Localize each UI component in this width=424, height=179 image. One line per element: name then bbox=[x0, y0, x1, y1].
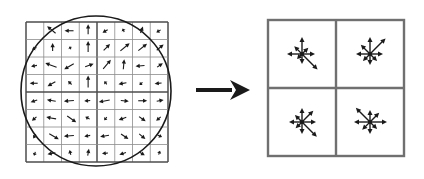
arrow-head bbox=[47, 98, 52, 102]
arrow-head bbox=[99, 99, 104, 103]
sift-descriptor-figure bbox=[0, 0, 424, 179]
gradient-arrow bbox=[86, 149, 90, 156]
arrow-shaft bbox=[103, 62, 109, 69]
arrow-head bbox=[30, 81, 34, 85]
arrow-head bbox=[86, 75, 90, 79]
gradient-arrow bbox=[68, 81, 72, 85]
gradient-arrow bbox=[85, 116, 89, 120]
gradient-arrow bbox=[155, 81, 162, 85]
arrow-head bbox=[158, 63, 163, 67]
gradient-arrow bbox=[156, 117, 161, 121]
transition-arrow-panel bbox=[190, 70, 256, 110]
arrow-head bbox=[86, 41, 90, 45]
arrow-head bbox=[159, 99, 164, 103]
arrow-head bbox=[102, 151, 106, 155]
arrow-head bbox=[136, 64, 140, 68]
gradient-arrow bbox=[157, 99, 164, 103]
arrow-head bbox=[64, 99, 68, 103]
gradient-arrow bbox=[84, 134, 90, 138]
gradient-arrow bbox=[104, 81, 107, 84]
gradient-arrow bbox=[158, 134, 163, 138]
gradient-arrow bbox=[85, 63, 93, 67]
gradient-arrow bbox=[119, 151, 126, 155]
gradient-arrow bbox=[86, 41, 90, 52]
gradient-arrow bbox=[139, 82, 142, 85]
histogram-center-dot bbox=[300, 52, 304, 56]
gradient-arrow bbox=[49, 134, 59, 140]
gradient-arrow bbox=[103, 60, 111, 69]
gradient-arrow bbox=[65, 29, 74, 33]
gradient-arrow bbox=[99, 99, 110, 103]
gradient-arrow bbox=[64, 99, 74, 103]
gradient-arrow bbox=[104, 117, 107, 120]
gradient-arrow bbox=[47, 98, 56, 102]
image-gradients-panel bbox=[0, 0, 196, 179]
arrow-head bbox=[119, 81, 124, 85]
histogram-center-dot bbox=[368, 120, 372, 124]
gradient-arrow bbox=[30, 81, 38, 85]
keypoint-descriptor-canvas bbox=[256, 0, 424, 179]
arrow-shaft bbox=[67, 64, 74, 68]
arrow-head bbox=[100, 134, 105, 138]
arrow-head bbox=[230, 80, 250, 100]
arrow-head bbox=[64, 134, 68, 138]
gradient-grid bbox=[26, 22, 168, 162]
keypoint-descriptor-panel bbox=[256, 0, 424, 179]
gradient-arrow bbox=[157, 151, 161, 155]
gradient-arrow bbox=[86, 24, 90, 34]
gradient-arrow bbox=[121, 99, 129, 103]
gradient-arrow bbox=[31, 99, 38, 103]
arrow-head bbox=[122, 59, 126, 63]
gradient-arrow bbox=[33, 152, 37, 156]
arrow-head bbox=[124, 135, 129, 139]
gradient-arrow bbox=[136, 64, 145, 68]
gradient-arrow bbox=[156, 29, 160, 33]
gradient-arrow bbox=[68, 150, 72, 155]
gradient-arrow bbox=[119, 117, 127, 121]
gradient-arrow bbox=[122, 28, 126, 32]
gradient-arrow bbox=[138, 99, 147, 103]
gradient-arrow bbox=[51, 43, 55, 51]
gradient-arrow bbox=[67, 116, 76, 122]
arrow-head bbox=[72, 118, 77, 122]
gradient-arrow bbox=[120, 43, 129, 51]
arrow-shaft bbox=[102, 100, 110, 101]
arrow-head bbox=[124, 99, 128, 103]
arrow-head bbox=[51, 43, 55, 47]
gradient-arrow bbox=[102, 151, 108, 155]
arrow-head bbox=[141, 117, 146, 121]
arrow-shaft bbox=[138, 46, 144, 51]
histogram-center-dot bbox=[300, 120, 304, 124]
gradient-arrow bbox=[119, 81, 127, 85]
arrow-shaft bbox=[120, 45, 127, 51]
gradient-arrow bbox=[104, 44, 110, 50]
arrow-head bbox=[84, 134, 88, 138]
histogram-center-dot bbox=[368, 52, 372, 56]
arrow-shaft bbox=[49, 134, 56, 138]
gradient-arrow bbox=[139, 134, 145, 139]
gradient-arrow bbox=[139, 117, 146, 122]
arrow-head bbox=[31, 64, 35, 68]
gradient-arrow bbox=[32, 117, 37, 121]
gradient-arrow bbox=[48, 82, 56, 87]
arrow-head bbox=[84, 99, 88, 103]
arrow-head bbox=[86, 149, 90, 154]
arrow-head bbox=[46, 116, 51, 120]
gradient-arrow bbox=[121, 134, 128, 139]
gradient-arrow bbox=[64, 134, 74, 138]
image-gradients-canvas bbox=[0, 0, 196, 179]
arrow-head bbox=[143, 99, 147, 103]
arrow-head bbox=[155, 81, 159, 85]
gradient-arrow bbox=[138, 44, 147, 51]
transition-arrow-canvas bbox=[190, 70, 260, 110]
gradient-arrow bbox=[31, 64, 37, 68]
gradient-arrow bbox=[45, 63, 56, 68]
gradient-arrow bbox=[122, 59, 126, 69]
gradient-arrow bbox=[102, 29, 107, 33]
arrow-shaft bbox=[48, 64, 56, 67]
gradient-arrow bbox=[46, 116, 56, 120]
gradient-arrow bbox=[86, 75, 90, 87]
rightward-arrow-icon bbox=[196, 80, 250, 100]
gradient-arrow bbox=[64, 64, 74, 69]
gradient-arrow bbox=[100, 134, 109, 138]
